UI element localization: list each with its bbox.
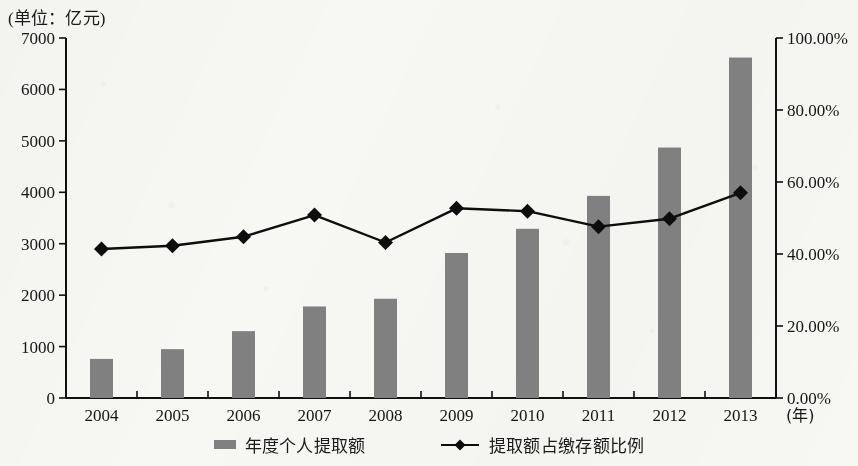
y-axis-left-tick-label: 4000: [21, 183, 55, 202]
bar-2010[interactable]: [516, 229, 539, 398]
line-marker-2009[interactable]: [449, 201, 464, 216]
bar-2012[interactable]: [658, 148, 681, 398]
bar-2006[interactable]: [232, 331, 255, 398]
x-axis-category-label: 2008: [369, 406, 403, 425]
x-axis-category-label: 2006: [227, 406, 261, 425]
x-axis-category-label: 2005: [156, 406, 190, 425]
y-axis-left-tick-label: 2000: [21, 286, 55, 305]
legend-label-line-series: 提取额占缴存额比例: [489, 432, 645, 457]
line-marker-2006[interactable]: [236, 229, 251, 244]
x-axis-category-label: 2004: [85, 406, 120, 425]
chart-page: (单位：亿元) 010002000300040005000600070000.0…: [0, 0, 858, 466]
bar-2005[interactable]: [161, 349, 184, 398]
y-axis-left-tick-label: 7000: [21, 29, 55, 48]
y-axis-right-tick-label: 20.00%: [787, 317, 839, 336]
x-axis-category-label: 2013: [724, 406, 758, 425]
y-axis-right-tick-label: 100.00%: [787, 29, 848, 48]
line-marker-2008[interactable]: [378, 235, 393, 250]
x-axis-category-label: 2007: [298, 406, 333, 425]
line-diamond-swatch-icon: [440, 438, 480, 452]
line-marker-2004[interactable]: [94, 241, 109, 256]
x-axis-category-label: 2009: [440, 406, 474, 425]
line-series-path: [102, 193, 741, 249]
line-marker-2010[interactable]: [520, 204, 535, 219]
bar-2009[interactable]: [445, 253, 468, 398]
chart-legend: 年度个人提取额 提取额占缴存额比例: [0, 432, 858, 457]
legend-item-line-series[interactable]: 提取额占缴存额比例: [440, 432, 645, 457]
bar-2004[interactable]: [90, 359, 113, 398]
y-axis-right-tick-label: 60.00%: [787, 173, 839, 192]
y-axis-left-tick-label: 1000: [21, 338, 55, 357]
legend-label-bar-series: 年度个人提取额: [245, 432, 366, 457]
y-axis-left-tick-label: 3000: [21, 235, 55, 254]
x-axis-unit-label: (年): [786, 406, 814, 425]
line-marker-2007[interactable]: [307, 208, 322, 223]
line-marker-2005[interactable]: [165, 238, 180, 253]
y-axis-left-tick-label: 6000: [21, 80, 55, 99]
y-axis-right-tick-label: 80.00%: [787, 101, 839, 120]
x-axis-category-label: 2011: [582, 406, 615, 425]
bar-2007[interactable]: [303, 306, 326, 398]
chart-plot-area: 010002000300040005000600070000.00%20.00%…: [0, 0, 858, 430]
bar-swatch-icon: [214, 440, 236, 449]
y-axis-left-tick-label: 0: [47, 389, 56, 408]
y-axis-left-tick-label: 5000: [21, 132, 55, 151]
x-axis-category-label: 2010: [511, 406, 545, 425]
bar-2008[interactable]: [374, 299, 397, 398]
bar-2013[interactable]: [729, 58, 752, 398]
y-axis-right-tick-label: 40.00%: [787, 245, 839, 264]
x-axis-category-label: 2012: [653, 406, 687, 425]
legend-item-bar-series[interactable]: 年度个人提取额: [214, 432, 366, 457]
